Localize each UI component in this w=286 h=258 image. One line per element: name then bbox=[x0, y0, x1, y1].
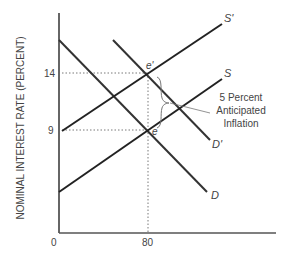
label-D: D bbox=[211, 189, 219, 201]
annotation-line3: Inflation bbox=[223, 118, 258, 129]
y-tick-9: 9 bbox=[48, 125, 54, 136]
label-e: e bbox=[152, 126, 158, 137]
label-e-prime: e' bbox=[146, 60, 155, 71]
x-tick-80: 80 bbox=[142, 237, 154, 248]
label-S-prime: S' bbox=[224, 12, 234, 24]
annotation-line1: 5 Percent bbox=[220, 92, 263, 103]
supply-curve-S-prime bbox=[62, 24, 222, 131]
label-D-prime: D' bbox=[212, 138, 223, 150]
label-S: S bbox=[224, 67, 232, 79]
y-tick-14: 14 bbox=[44, 68, 56, 79]
supply-curve-S bbox=[59, 79, 222, 192]
demand-curve-D bbox=[59, 40, 207, 192]
y-axis-title: NOMINAL INTEREST RATE (PERCENT) bbox=[15, 36, 26, 219]
x-origin-label: 0 bbox=[51, 237, 57, 248]
loanable-funds-diagram: 14 9 0 80 NOMINAL INTEREST RATE (PERCENT… bbox=[0, 0, 286, 258]
annotation-line2: Anticipated bbox=[216, 105, 265, 116]
